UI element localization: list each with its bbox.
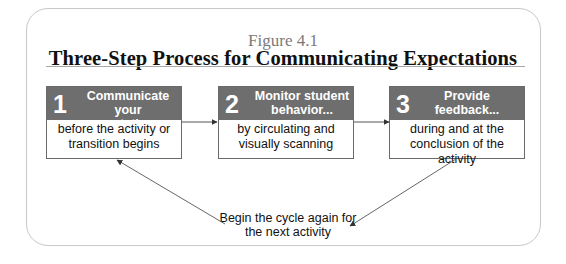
flow-arrows (0, 0, 566, 264)
arrow-cycle-to-step1 (117, 160, 225, 224)
arrow-step3-to-cycle (350, 159, 456, 226)
